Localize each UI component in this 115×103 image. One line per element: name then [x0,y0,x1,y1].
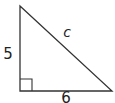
horizontal-leg-label: 6 [61,89,71,103]
triangle-diagram: 5 6 c [0,0,115,103]
right-angle-marker [20,79,32,91]
hypotenuse-label: c [63,24,71,40]
right-triangle [20,6,112,91]
vertical-leg-label: 5 [3,45,13,63]
